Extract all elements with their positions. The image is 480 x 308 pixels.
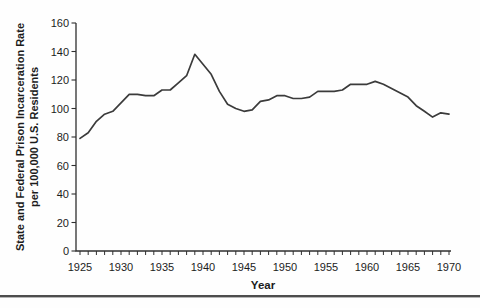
- x-axis-tick-label: 1940: [191, 261, 215, 273]
- y-axis-tick-label: 140: [51, 46, 69, 58]
- y-axis-title-line2: per 100,000 U.S. Residents: [28, 67, 40, 207]
- x-axis-tick-label: 1965: [396, 261, 420, 273]
- x-axis-title: Year: [251, 279, 276, 291]
- y-axis-tick-label: 40: [57, 188, 69, 200]
- y-axis-tick-label: 60: [57, 160, 69, 172]
- x-axis-tick-label: 1950: [273, 261, 297, 273]
- x-axis-tick-label: 1970: [437, 261, 461, 273]
- incarceration-rate-line: [80, 54, 449, 138]
- figure-page: 0204060801001201401601925193019351940194…: [0, 0, 480, 308]
- y-axis-tick-label: 120: [51, 74, 69, 86]
- y-axis-tick-label: 0: [63, 245, 69, 257]
- y-axis-tick-label: 80: [57, 131, 69, 143]
- x-axis-tick-label: 1930: [109, 261, 133, 273]
- x-axis-tick-label: 1945: [232, 261, 256, 273]
- x-axis-tick-label: 1955: [314, 261, 338, 273]
- line-chart-canvas: 0204060801001201401601925193019351940194…: [0, 0, 480, 308]
- axes: [76, 23, 451, 251]
- y-axis-title-line1: State and Federal Prison Incarceration R…: [14, 23, 26, 251]
- plot-area: 0204060801001201401601925193019351940194…: [51, 17, 462, 273]
- x-axis-tick-label: 1960: [355, 261, 379, 273]
- y-axis-tick-label: 100: [51, 103, 69, 115]
- incarceration-rate-figure: 0204060801001201401601925193019351940194…: [0, 0, 480, 308]
- page-divider-rule: [0, 295, 480, 297]
- x-axis-tick-label: 1925: [68, 261, 92, 273]
- x-axis-tick-label: 1935: [150, 261, 174, 273]
- y-axis-tick-label: 160: [51, 17, 69, 29]
- y-axis-tick-label: 20: [57, 217, 69, 229]
